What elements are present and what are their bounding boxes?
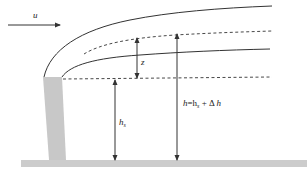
- plume-lower-boundary: [62, 49, 270, 77]
- effective-height-plus: + Δ: [199, 98, 216, 108]
- stack-height-subscript: s: [124, 122, 126, 128]
- stack-top-level-line: [63, 77, 272, 79]
- plume-rise-diagram: u z hs h=hs + Δ h: [0, 0, 307, 181]
- stack-height-label: hs: [119, 118, 126, 128]
- plume-upper-boundary: [44, 6, 272, 77]
- effective-height-label: h=hs + Δ h: [183, 99, 221, 109]
- ground: [21, 160, 307, 167]
- stack: [43, 77, 66, 160]
- rise-label: z: [141, 58, 145, 67]
- effective-height-eq: =h: [188, 98, 198, 108]
- plume-upper-centerline: [84, 31, 272, 54]
- wind-speed-label: u: [33, 11, 38, 20]
- diagram-canvas: [0, 0, 307, 181]
- effective-height-delta: h: [217, 98, 222, 108]
